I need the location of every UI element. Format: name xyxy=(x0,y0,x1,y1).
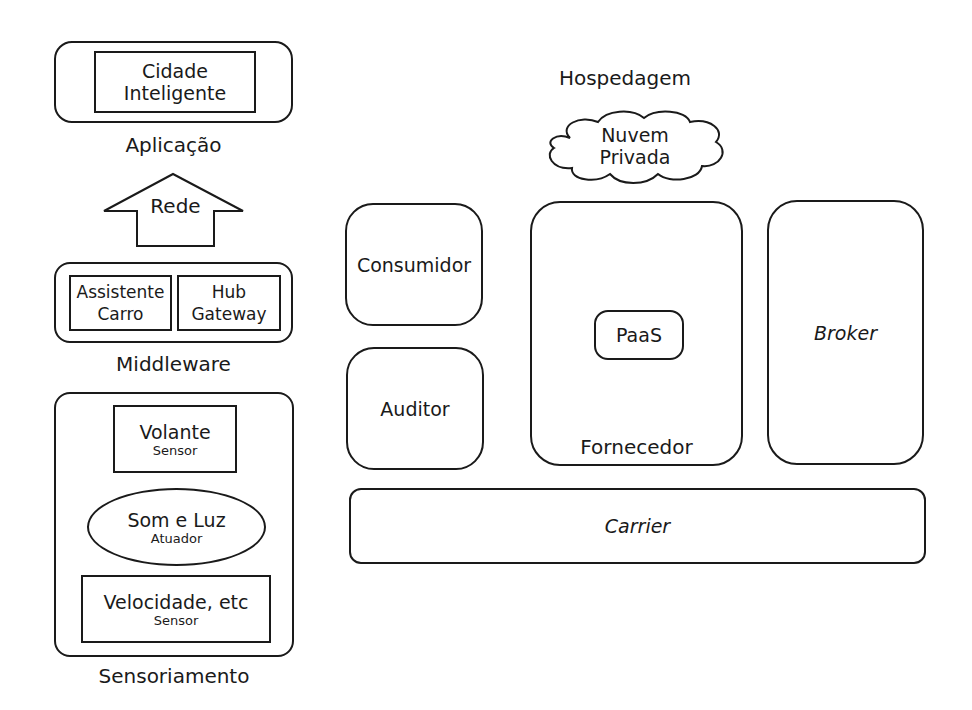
car-assistant-line2: Carro xyxy=(98,303,144,325)
consumer-box: Consumidor xyxy=(345,203,483,326)
middleware-layer-box: Assistente Carro Hub Gateway xyxy=(54,262,293,343)
paas-box: PaaS xyxy=(594,310,684,360)
private-cloud-line2: Privada xyxy=(600,146,671,168)
speed-subtitle: Sensor xyxy=(154,613,199,628)
private-cloud-line1: Nuvem xyxy=(601,124,669,146)
broker-box: Broker xyxy=(767,200,924,465)
carrier-box: Carrier xyxy=(349,488,926,564)
steering-wheel-title: Volante xyxy=(139,421,210,443)
smart-city-line2: Inteligente xyxy=(124,82,226,104)
sound-light-actuator-ellipse: Som e Luz Atuador xyxy=(87,488,266,566)
provider-caption: Fornecedor xyxy=(532,435,741,459)
private-cloud-label: Nuvem Privada xyxy=(560,118,710,174)
sound-light-title: Som e Luz xyxy=(127,509,225,531)
hub-gateway-line1: Hub xyxy=(212,281,246,303)
steering-wheel-sensor-box: Volante Sensor xyxy=(113,405,237,473)
network-label: Rede xyxy=(137,194,214,218)
broker-label: Broker xyxy=(814,322,877,344)
application-layer-box: Cidade Inteligente xyxy=(54,41,293,123)
steering-wheel-subtitle: Sensor xyxy=(153,443,198,458)
sensing-caption: Sensoriamento xyxy=(54,664,294,688)
car-assistant-line1: Assistente xyxy=(77,281,165,303)
hub-gateway-box: Hub Gateway xyxy=(177,275,281,331)
consumer-label: Consumidor xyxy=(357,254,471,276)
sensing-layer-box: Volante Sensor Som e Luz Atuador Velocid… xyxy=(54,392,294,657)
speed-title: Velocidade, etc xyxy=(104,591,249,613)
sound-light-subtitle: Atuador xyxy=(151,531,203,546)
smart-city-box: Cidade Inteligente xyxy=(94,51,256,113)
car-assistant-box: Assistente Carro xyxy=(69,275,172,331)
provider-box: PaaS Fornecedor xyxy=(530,201,743,466)
hosting-caption: Hospedagem xyxy=(540,66,710,90)
smart-city-line1: Cidade xyxy=(142,60,208,82)
hub-gateway-line2: Gateway xyxy=(191,303,266,325)
auditor-box: Auditor xyxy=(346,347,484,470)
speed-sensor-box: Velocidade, etc Sensor xyxy=(81,575,271,643)
middleware-caption: Middleware xyxy=(54,352,293,376)
auditor-label: Auditor xyxy=(380,398,449,420)
carrier-label: Carrier xyxy=(605,515,670,537)
paas-label: PaaS xyxy=(616,324,662,346)
application-caption: Aplicação xyxy=(54,133,293,157)
